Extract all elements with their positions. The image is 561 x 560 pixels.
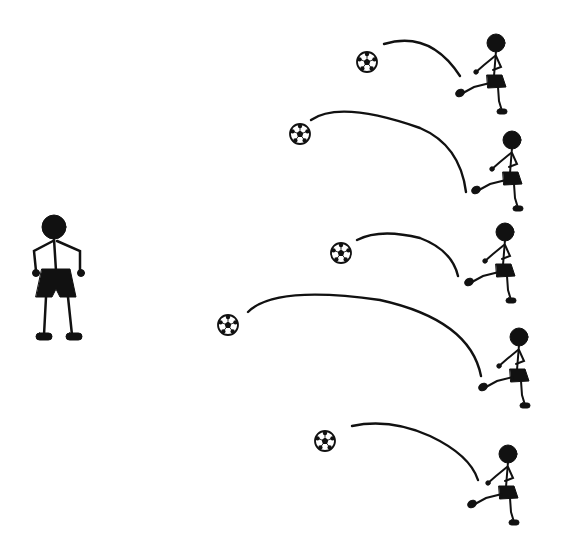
kicker-head [487,34,505,52]
kicker-kicking-leg [475,494,502,504]
kicker-standing-leg [521,381,525,405]
receiver-head [42,215,66,239]
kicker-shorts [510,369,529,382]
receiver-player [33,215,85,340]
drill-canvas [0,0,561,560]
soccer-drill-illustration [0,0,561,560]
kicking-player [463,223,516,303]
soccer-ball-icon [218,315,238,335]
kicking-player [454,34,507,114]
kicker-shorts [487,75,506,88]
kicker-standing-leg [498,87,502,111]
receiver-left-foot [36,333,52,340]
kicker-head [496,223,514,241]
kicker-head [510,328,528,346]
ball-trajectory-arc [352,424,478,480]
receiver-shorts [36,269,76,297]
ball-trajectory-arc [384,41,460,76]
kicker-shorts [496,264,515,277]
kicker-standing-leg [507,276,511,300]
kicking-player [470,131,523,211]
kicker-standing-leg [510,498,514,522]
ball-trajectory-arc [248,295,481,376]
soccer-ball-icon [290,124,310,144]
kick-lane-2 [290,112,523,211]
kicker-kicking-leg [472,272,499,282]
receiver-left-arm [34,241,53,271]
receiver-right-foot [66,333,82,340]
kicker-kicking-leg [463,83,490,93]
kicker-head [503,131,521,149]
soccer-ball-icon [331,243,351,263]
kick-lane-3 [331,223,516,303]
kicker-kicking-leg [479,180,506,190]
ball-trajectory-arc [311,112,466,192]
receiver-right-arm [57,241,80,271]
soccer-ball-icon [315,431,335,451]
kicker-shorts [499,486,518,499]
kicker-kicking-leg [486,377,513,387]
kick-lane-1 [357,34,507,114]
kicking-player [466,445,519,525]
kicking-player [477,328,530,408]
kick-lane-5 [315,424,519,525]
kick-lane-4 [218,295,530,408]
kicker-standing-leg [514,184,518,208]
ball-trajectory-arc [357,233,458,276]
kicker-head [499,445,517,463]
soccer-ball-icon [357,52,377,72]
kicker-shorts [503,172,522,185]
